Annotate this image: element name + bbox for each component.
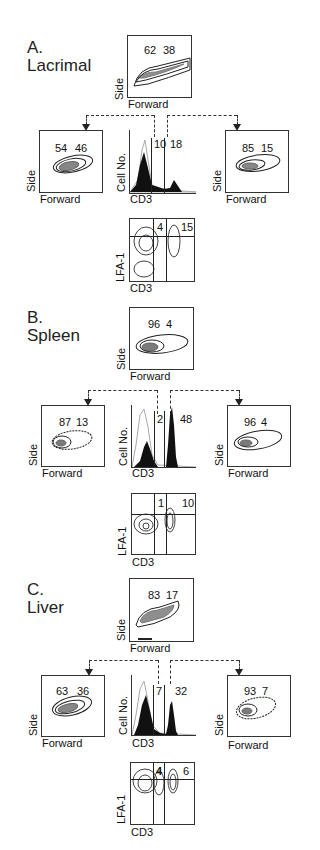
y-axis-label: Side	[27, 714, 39, 736]
x-axis-label: Forward	[42, 467, 82, 479]
gate-right-pct: 15	[261, 142, 273, 154]
y-axis-label: Cell No.	[117, 427, 129, 466]
contour-icon	[42, 676, 105, 737]
contour-icon	[228, 406, 291, 467]
quadrant-plot: 4 6	[130, 762, 195, 825]
contour-icon	[40, 131, 103, 193]
y-axis-label: Side	[213, 714, 225, 736]
gate-left-pct: 96	[148, 318, 160, 330]
quadrant-line	[166, 219, 167, 282]
y-axis-label: Side	[115, 619, 127, 641]
histogram-plot: 2 48	[131, 405, 196, 468]
x-axis-label: CD3	[130, 193, 152, 205]
gate-value-1: 2	[157, 413, 163, 425]
y-axis-label: LFA-1	[114, 253, 126, 282]
gate-line	[151, 138, 152, 193]
top-scatter-plot: 62 38	[127, 35, 192, 98]
panel-tissue: Spleen	[27, 326, 80, 346]
x-axis-label: CD3	[130, 282, 152, 294]
y-axis-label: LFA-1	[115, 795, 127, 824]
x-axis-label: CD3	[132, 467, 154, 479]
gate-right-pct: 4	[261, 416, 267, 428]
quadrant-line	[130, 236, 195, 237]
panel-letter: C.	[27, 580, 44, 600]
contour-icon	[130, 579, 194, 642]
quadrant-line	[131, 779, 195, 780]
panel-tissue: Lacrimal	[27, 56, 91, 76]
contour-icon	[226, 131, 289, 193]
panel-letter: A.	[27, 38, 43, 58]
x-axis-label: Forward	[42, 737, 82, 749]
x-axis-label: CD3	[131, 826, 153, 838]
top-scatter-plot: 83 17	[129, 578, 194, 642]
gate-right-pct: 13	[76, 416, 88, 428]
right-scatter-plot: 96 4	[227, 405, 291, 467]
gate-left-pct: 85	[242, 142, 254, 154]
gate-line	[164, 411, 165, 467]
histogram-plot: 10 18	[129, 130, 196, 194]
connector-line	[86, 115, 154, 116]
left-scatter-plot: 63 36	[41, 675, 105, 737]
x-axis-label: CD3	[132, 556, 154, 568]
y-axis-label: LFA-1	[116, 527, 128, 556]
gate-right-pct: 7	[262, 685, 268, 697]
gate-left-pct: 63	[56, 685, 68, 697]
x-axis-label: Forward	[40, 193, 80, 205]
connector-line	[170, 390, 239, 391]
quadrant-value-right: 6	[183, 765, 189, 777]
gate-value-1: 10	[154, 138, 166, 150]
quadrant-line	[154, 494, 155, 555]
right-scatter-plot: 93 7	[227, 675, 291, 737]
y-axis-label: Side	[113, 78, 125, 100]
left-scatter-plot: 54 46	[39, 130, 103, 193]
contour-icon	[228, 676, 291, 737]
y-axis-label: Side	[27, 444, 39, 466]
quadrant-line	[132, 514, 196, 515]
gate-left-pct: 93	[244, 685, 256, 697]
contour-icon	[42, 406, 105, 467]
gate-value-2: 48	[180, 413, 192, 425]
quadrant-line	[153, 219, 154, 282]
top-scatter-plot: 96 4	[129, 307, 194, 370]
connector-line	[88, 390, 157, 391]
y-axis-label: Side	[211, 170, 223, 192]
contour-icon	[128, 36, 192, 98]
gate-right-pct: 46	[75, 142, 87, 154]
quadrant-value-mid: 4	[157, 221, 163, 233]
right-scatter-plot: 85 15	[225, 130, 289, 193]
x-axis-label: Forward	[228, 467, 268, 479]
gate-right-pct: 17	[166, 589, 178, 601]
gate-value-2: 18	[170, 138, 182, 150]
gate-right-pct: 4	[166, 318, 172, 330]
quadrant-value-mid: 1	[158, 497, 164, 509]
gate-left-pct: 96	[244, 416, 256, 428]
gate-line	[153, 685, 154, 735]
connector-line	[167, 115, 237, 116]
y-axis-label: Side	[213, 444, 225, 466]
quadrant-plot: 1 10	[131, 493, 196, 555]
gate-left-pct: 62	[144, 44, 156, 56]
x-axis-label: Forward	[228, 739, 268, 751]
gate-value-1: 7	[156, 685, 162, 697]
gate-left-pct: 83	[148, 589, 160, 601]
quadrant-value-right: 15	[181, 221, 193, 233]
gate-left-pct: 87	[59, 416, 71, 428]
quadrant-value-mid: 4	[156, 765, 162, 777]
gate-right-pct: 36	[77, 685, 89, 697]
x-axis-label: CD3	[132, 737, 154, 749]
quadrant-value-right: 10	[182, 497, 194, 509]
gate-left-pct: 54	[55, 142, 67, 154]
quadrant-line	[166, 494, 167, 555]
y-axis-label: Side	[115, 348, 127, 370]
gate-value-2: 32	[175, 685, 187, 697]
connector-line	[170, 660, 239, 661]
x-axis-label: Forward	[128, 98, 168, 110]
quadrant-line	[153, 763, 154, 825]
y-axis-label: Side	[25, 170, 37, 192]
gate-right-pct: 38	[163, 44, 175, 56]
left-scatter-plot: 87 13	[41, 405, 105, 467]
panel-tissue: Liver	[27, 598, 64, 618]
x-axis-label: Forward	[130, 370, 170, 382]
gate-line	[164, 685, 165, 735]
y-axis-label: Cell No.	[115, 153, 127, 192]
